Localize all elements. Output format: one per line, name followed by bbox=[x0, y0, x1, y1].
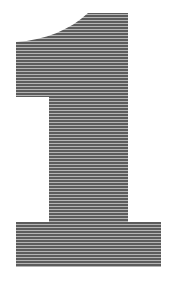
digit-one-shape bbox=[16, 13, 161, 267]
digit-one-icon bbox=[0, 0, 175, 284]
figure-canvas: 1 bbox=[0, 0, 175, 284]
